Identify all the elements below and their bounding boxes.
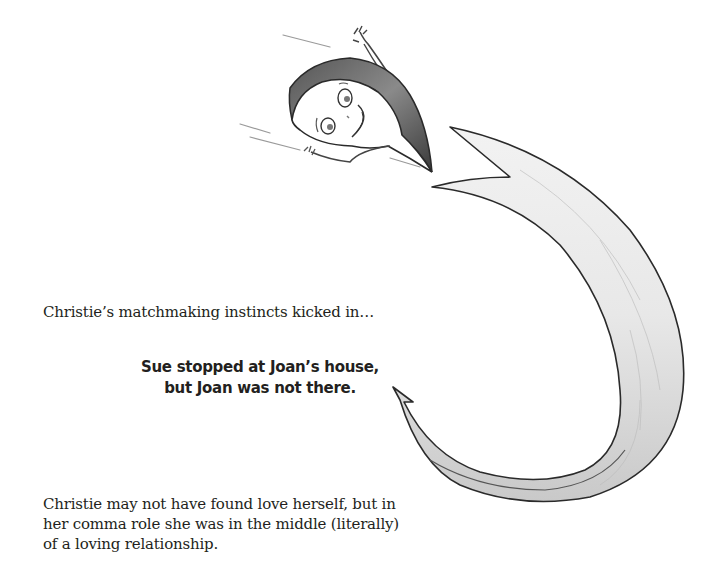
conclusion-line-1: Christie may not have found love herself…: [43, 494, 483, 514]
conclusion-line-3: of a loving relationship.: [43, 534, 483, 554]
comma-illustration: [0, 0, 720, 580]
swoosh-arrow: [393, 127, 684, 501]
conclusion-paragraph: Christie may not have found love herself…: [43, 494, 483, 554]
conclusion-line-2: her comma role she was in the middle (li…: [43, 514, 483, 534]
example-sentence: Sue stopped at Joan’s house, but Joan wa…: [130, 357, 390, 399]
intro-text: Christie’s matchmaking instincts kicked …: [43, 302, 374, 322]
example-sentence-line-2: but Joan was not there.: [130, 378, 390, 399]
comma-character: [289, 26, 432, 172]
example-sentence-line-1: Sue stopped at Joan’s house,: [130, 357, 390, 378]
